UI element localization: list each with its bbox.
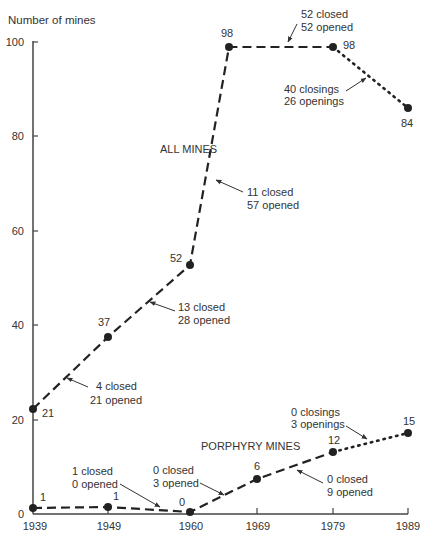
svg-text:6: 6 [254,460,260,472]
svg-text:40 closings: 40 closings [284,83,340,95]
annotation-all-1960-1969: 11 closed 57 opened [216,180,299,211]
svg-text:1960: 1960 [179,520,203,532]
annotation-all-1979-1989: 40 closings 26 openings [284,78,366,107]
svg-text:15: 15 [403,415,415,427]
svg-text:21: 21 [42,407,54,419]
svg-text:1989: 1989 [396,520,420,532]
svg-text:1969: 1969 [246,520,270,532]
y-axis-label: Number of mines [8,14,96,26]
svg-text:3 openings: 3 openings [291,418,345,430]
series-all-mines [29,43,412,413]
svg-text:37: 37 [98,316,110,328]
svg-text:52 opened: 52 opened [301,21,353,33]
all-mines-point-labels: 21 37 52 98 98 84 [42,27,413,419]
svg-text:0 closings: 0 closings [291,406,340,418]
svg-text:84: 84 [401,117,413,129]
svg-text:52: 52 [170,252,182,264]
svg-text:13 closed: 13 closed [178,301,225,313]
x-tick-labels: 1939 1949 1960 1969 1979 1989 [23,520,420,532]
svg-text:4 closed: 4 closed [96,380,137,392]
svg-text:0: 0 [179,496,185,508]
series-label-all-mines: ALL MINES [160,143,217,155]
mines-chart: Number of mines 100 80 60 40 20 0 1939 1… [0,0,427,543]
svg-text:1939: 1939 [23,520,47,532]
svg-text:60: 60 [12,225,24,237]
svg-text:28 opened: 28 opened [178,314,230,326]
svg-text:98: 98 [343,39,355,51]
svg-text:20: 20 [12,414,24,426]
svg-text:57 opened: 57 opened [247,199,299,211]
svg-text:26 openings: 26 openings [284,95,344,107]
annotation-all-1969-1979: 52 closed 52 opened [288,8,353,42]
svg-text:21 opened: 21 opened [90,394,142,406]
svg-text:0 opened: 0 opened [72,478,118,490]
svg-text:0: 0 [18,508,24,520]
svg-text:12: 12 [328,434,340,446]
svg-text:1: 1 [113,490,119,502]
annotation-all-1949-1960: 13 closed 28 opened [150,301,230,326]
svg-text:9 opened: 9 opened [327,486,373,498]
svg-text:11 closed: 11 closed [247,186,293,198]
y-tick-labels: 100 80 60 40 20 0 [6,36,24,520]
series-label-porphyry-mines: PORPHYRY MINES [201,440,300,452]
svg-text:0 closed: 0 closed [327,473,368,485]
annotation-all-1939-1949: 4 closed 21 opened [67,378,142,406]
svg-text:52 closed: 52 closed [301,8,348,20]
svg-text:3 opened: 3 opened [153,477,199,489]
svg-text:1: 1 [40,491,46,503]
svg-text:40: 40 [12,319,24,331]
svg-text:0 closed: 0 closed [153,464,194,476]
svg-text:1949: 1949 [97,520,121,532]
svg-text:1979: 1979 [321,520,345,532]
svg-text:98: 98 [221,27,233,39]
annotation-porphyry-1960-1969: 0 closed 3 opened [153,464,224,495]
svg-text:100: 100 [6,36,24,48]
annotation-porphyry-1969-1979: 0 closed 9 opened [297,470,373,498]
svg-text:80: 80 [12,130,24,142]
svg-text:1 closed: 1 closed [72,465,113,477]
